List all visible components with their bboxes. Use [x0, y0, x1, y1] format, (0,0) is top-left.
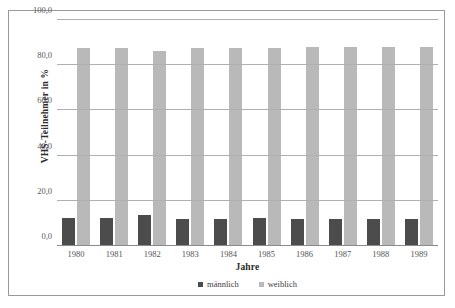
x-tick-label: 1984 — [209, 249, 247, 259]
bar-groups — [57, 20, 438, 246]
bar-group — [324, 20, 362, 246]
bar-group — [133, 20, 171, 246]
legend-label: weiblich — [268, 279, 297, 289]
bar-group — [171, 20, 209, 246]
bar-weiblich-1987 — [344, 47, 357, 246]
chart-figure: VHS-Teilnehmer in % 0,020,040,060,080,01… — [8, 10, 445, 296]
bar-weiblich-1983 — [191, 48, 204, 246]
bar-weiblich-1985 — [268, 48, 281, 246]
x-tick-label: 1981 — [95, 249, 133, 259]
x-tick-label: 1986 — [286, 249, 324, 259]
y-tick-label: 80,0 — [37, 50, 52, 60]
x-tick-label: 1982 — [133, 249, 171, 259]
bar-männlich-1980 — [62, 218, 75, 246]
bar-männlich-1982 — [138, 215, 151, 246]
bar-group — [400, 20, 438, 246]
bar-männlich-1981 — [100, 218, 113, 246]
bar-männlich-1984 — [214, 219, 227, 246]
gridline — [57, 19, 438, 20]
bar-weiblich-1988 — [382, 47, 395, 246]
x-tick-label: 1987 — [324, 249, 362, 259]
bar-männlich-1988 — [367, 219, 380, 246]
gridline — [57, 155, 438, 156]
bar-group — [57, 20, 95, 246]
x-tick-label: 1985 — [247, 249, 285, 259]
bar-weiblich-1986 — [306, 47, 319, 246]
bar-group — [209, 20, 247, 246]
y-tick-label: 100,0 — [33, 5, 52, 15]
x-axis-ticks: 1980198119821983198419851986198719881989 — [57, 249, 438, 259]
plot-area: 0,020,040,060,080,0100,0 — [57, 20, 438, 246]
x-tick-label: 1988 — [362, 249, 400, 259]
bar-group — [286, 20, 324, 246]
gridline — [57, 200, 438, 201]
plot-inner: 0,020,040,060,080,0100,0 — [57, 20, 438, 246]
bar-weiblich-1984 — [229, 48, 242, 246]
bar-group — [247, 20, 285, 246]
y-tick-label: 60,0 — [37, 95, 52, 105]
chart-legend: männlichweiblich — [57, 279, 438, 289]
legend-swatch — [198, 282, 203, 287]
gridline — [57, 64, 438, 65]
bar-männlich-1986 — [291, 219, 304, 246]
bar-männlich-1987 — [329, 219, 342, 246]
legend-item-weiblich: weiblich — [259, 279, 297, 289]
axis-baseline — [57, 245, 438, 246]
y-tick-label: 40,0 — [37, 141, 52, 151]
x-tick-label: 1983 — [171, 249, 209, 259]
bar-weiblich-1982 — [153, 51, 166, 246]
bar-weiblich-1980 — [77, 48, 90, 246]
y-tick-label: 0,0 — [41, 231, 52, 241]
y-tick-label: 20,0 — [37, 186, 52, 196]
bar-group — [362, 20, 400, 246]
legend-label: männlich — [207, 279, 239, 289]
legend-item-männlich: männlich — [198, 279, 239, 289]
legend-swatch — [259, 282, 264, 287]
gridline — [57, 109, 438, 110]
bar-männlich-1983 — [176, 219, 189, 246]
x-axis-title: Jahre — [57, 262, 438, 272]
x-tick-label: 1980 — [57, 249, 95, 259]
bar-weiblich-1981 — [115, 48, 128, 246]
bar-group — [95, 20, 133, 246]
bar-weiblich-1989 — [420, 47, 433, 246]
bar-männlich-1985 — [253, 218, 266, 246]
bar-männlich-1989 — [405, 219, 418, 246]
x-tick-label: 1989 — [400, 249, 438, 259]
